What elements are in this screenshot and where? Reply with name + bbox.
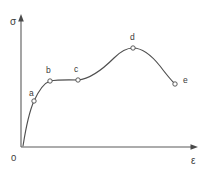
x-axis-label: ε — [191, 155, 196, 166]
origin-label: 0 — [11, 152, 16, 163]
curve-point-labels: abcde — [29, 32, 188, 98]
point-marker-d — [131, 46, 135, 50]
point-label-a: a — [29, 88, 34, 98]
point-label-b: b — [46, 65, 51, 75]
stress-strain-curve — [23, 48, 175, 146]
x-axis-arrowhead — [191, 144, 199, 150]
point-label-d: d — [130, 32, 135, 42]
plot-canvas: abcde σ ε 0 — [0, 0, 208, 169]
point-marker-b — [48, 79, 52, 83]
point-marker-c — [76, 78, 80, 82]
y-axis-arrowhead — [18, 14, 24, 22]
point-label-e: e — [183, 75, 188, 85]
stress-strain-figure: abcde σ ε 0 — [0, 0, 208, 169]
point-marker-a — [32, 99, 36, 103]
point-label-c: c — [74, 64, 79, 74]
point-marker-e — [173, 82, 177, 86]
curve-point-markers — [32, 46, 177, 103]
y-axis-label: σ — [10, 16, 17, 27]
